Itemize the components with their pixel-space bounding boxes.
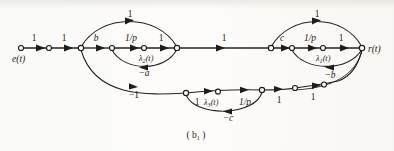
- label-mid-long: 1: [222, 33, 227, 43]
- label-lambda2-arg: (t): [146, 54, 154, 63]
- label-inv-p-right: 1/p: [304, 33, 316, 43]
- node-left-block-out[interactable]: [174, 45, 179, 50]
- flow-graph-canvas: e(t) r(t) 1 1 b 1/p 1 1 c 1/p 1 1 1 λ2(t…: [0, 0, 394, 151]
- arrowhead-minus-one: [129, 83, 138, 89]
- label-source-et: e(t): [12, 54, 25, 65]
- label-minus-b: −b: [324, 70, 335, 80]
- label-inv-p-left: 1/p: [125, 33, 137, 43]
- label-lambda3-group: λ3(t): [203, 98, 219, 108]
- label-lambda1-arg: (t): [323, 54, 331, 63]
- arrowheads-arcs: [125, 18, 334, 115]
- label-e-seg2: 1: [62, 33, 67, 43]
- arrowhead-bottom-seg3: [274, 86, 283, 92]
- label-minus-a: −a: [138, 68, 149, 78]
- label-bot-one-a: 1: [195, 97, 200, 107]
- node-e2[interactable]: [47, 46, 52, 51]
- label-minus-c: −c: [223, 113, 234, 123]
- node-summing-right[interactable]: [268, 45, 273, 50]
- arrowhead-c-branch: [281, 45, 290, 52]
- arrowhead-inv-p-left: [130, 45, 139, 52]
- arrowhead-inv-p-right: [308, 45, 317, 52]
- label-top-arc-right: 1: [315, 9, 320, 19]
- label-lambda1-group: λ1(t): [315, 54, 331, 64]
- label-sink-rt: r(t): [368, 44, 381, 55]
- arrowhead-bottom-seg4: [312, 83, 321, 90]
- node-bottom-mid[interactable]: [293, 86, 298, 91]
- label-b-branch: b: [94, 33, 99, 43]
- edge-top-arc-right: [271, 22, 362, 48]
- node-lambda3[interactable]: [216, 89, 221, 94]
- arrowhead-bottom-seg1: [204, 88, 213, 95]
- arrowhead-mid-long: [216, 45, 225, 52]
- node-summing-left[interactable]: [78, 45, 83, 50]
- edge-bottom-seg1: [186, 90, 262, 93]
- svg-text:λ3(t): λ3(t): [203, 98, 219, 108]
- figure-caption: ( b1 ): [187, 130, 206, 141]
- label-one-after-p-right: 1: [339, 33, 344, 43]
- label-lambda3-arg: (t): [211, 98, 219, 107]
- label-top-arc-left: 1: [128, 9, 133, 19]
- node-bottom-block-out[interactable]: [259, 87, 264, 92]
- node-lambda2[interactable]: [142, 46, 147, 51]
- label-one-after-p-left: 1: [159, 33, 164, 43]
- figure-caption-close: ): [200, 130, 206, 141]
- label-bot-one-b: 1: [277, 95, 282, 105]
- signal-flow-graph-figure: e(t) r(t) 1 1 b 1/p 1 1 c 1/p 1 1 1 λ2(t…: [0, 0, 394, 151]
- label-minus-one: −1: [129, 90, 139, 100]
- label-inv-p-bottom: 1/p: [239, 97, 251, 107]
- node-b-out[interactable]: [110, 46, 115, 51]
- node-c-out[interactable]: [290, 46, 295, 51]
- arrowhead-bottom-seg2: [240, 87, 249, 93]
- label-e-seg1: 1: [32, 33, 37, 43]
- arrowhead-one-after-p-right: [340, 45, 349, 52]
- arrowhead-one-after-p-left: [160, 45, 169, 52]
- arrowhead-e-seg2: [64, 45, 73, 52]
- node-bottom-in[interactable]: [183, 90, 188, 95]
- labels-group: e(t) r(t) 1 1 b 1/p 1 1 c 1/p 1 1 1 λ2(t…: [12, 9, 381, 141]
- label-bot-one-c: 1: [311, 92, 316, 102]
- node-bottom-right[interactable]: [322, 82, 327, 87]
- figure-caption-open: ( b: [187, 130, 198, 141]
- node-lambda1[interactable]: [321, 46, 326, 51]
- arrowhead-e-seg1: [36, 45, 45, 52]
- label-lambda2-group: λ2(t): [138, 54, 154, 64]
- node-source[interactable]: [19, 46, 24, 51]
- svg-text:λ2(t): λ2(t): [138, 54, 154, 64]
- label-c-branch: c: [280, 33, 285, 43]
- node-sink[interactable]: [359, 45, 364, 50]
- arrowhead-b-branch: [96, 45, 105, 52]
- svg-text:λ1(t): λ1(t): [315, 54, 331, 64]
